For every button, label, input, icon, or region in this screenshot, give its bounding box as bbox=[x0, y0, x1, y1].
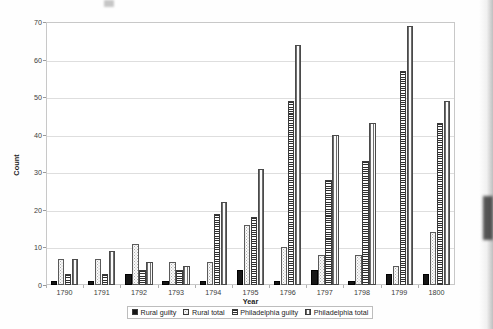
page-scan-artifact bbox=[483, 196, 493, 240]
bar bbox=[169, 262, 175, 285]
bar bbox=[88, 281, 94, 285]
bar-group bbox=[423, 22, 450, 285]
bar bbox=[444, 101, 450, 285]
x-tick-label: 1794 bbox=[193, 288, 233, 297]
bar bbox=[162, 281, 168, 285]
x-tick-label: 1795 bbox=[231, 288, 271, 297]
y-tick-label: 30 bbox=[14, 168, 42, 177]
x-axis-label: Year bbox=[46, 297, 455, 306]
bar bbox=[423, 274, 429, 285]
x-tick-label: 1800 bbox=[416, 288, 456, 297]
x-tick-label: 1793 bbox=[156, 288, 196, 297]
bar bbox=[258, 169, 264, 285]
bar bbox=[437, 123, 443, 285]
x-tick-mark bbox=[269, 285, 270, 288]
bar bbox=[325, 180, 331, 285]
legend-item[interactable]: Philadelphia guilty bbox=[232, 309, 298, 316]
y-tick-mark bbox=[43, 172, 46, 173]
bar-group bbox=[237, 22, 264, 285]
bar bbox=[125, 274, 131, 285]
bar bbox=[200, 281, 206, 285]
page-scan-artifact-top bbox=[104, 0, 114, 7]
legend-label: Philadelphia total bbox=[314, 309, 369, 316]
bar-group bbox=[200, 22, 227, 285]
y-tick-mark bbox=[43, 247, 46, 248]
bar bbox=[355, 255, 361, 285]
x-tick-mark bbox=[343, 285, 344, 288]
bar bbox=[281, 247, 287, 285]
bar bbox=[318, 255, 324, 285]
bar bbox=[237, 270, 243, 285]
bar bbox=[244, 225, 250, 285]
y-tick-mark bbox=[43, 97, 46, 98]
bar bbox=[146, 262, 152, 285]
bar-group bbox=[386, 22, 413, 285]
x-tick-mark bbox=[232, 285, 233, 288]
bar bbox=[295, 45, 301, 285]
x-tick-mark bbox=[120, 285, 121, 288]
bar-series-container bbox=[46, 22, 455, 285]
x-tick-label: 1797 bbox=[305, 288, 345, 297]
bar bbox=[332, 135, 338, 285]
y-tick-label: 0 bbox=[14, 281, 42, 290]
legend-item[interactable]: Rural guilty bbox=[132, 309, 176, 316]
bar bbox=[288, 101, 294, 285]
bar bbox=[430, 232, 436, 285]
bar bbox=[274, 281, 280, 285]
legend-swatch bbox=[183, 309, 189, 315]
bar bbox=[393, 266, 399, 285]
y-tick-label: 40 bbox=[14, 130, 42, 139]
bar bbox=[400, 71, 406, 285]
x-tick-mark bbox=[381, 285, 382, 288]
bar-group bbox=[51, 22, 78, 285]
bar bbox=[58, 259, 64, 285]
bar bbox=[386, 274, 392, 285]
bar bbox=[109, 251, 115, 285]
x-tick-label: 1799 bbox=[379, 288, 419, 297]
bar bbox=[183, 266, 189, 285]
x-tick-mark bbox=[46, 285, 47, 288]
legend-item[interactable]: Rural total bbox=[183, 309, 224, 316]
x-tick-label: 1796 bbox=[268, 288, 308, 297]
x-tick-mark bbox=[83, 285, 84, 288]
y-tick-label: 20 bbox=[14, 205, 42, 214]
x-tick-label: 1790 bbox=[45, 288, 85, 297]
bar bbox=[65, 274, 71, 285]
bar bbox=[51, 281, 57, 285]
bar-group bbox=[311, 22, 338, 285]
legend-label: Rural total bbox=[192, 309, 225, 316]
y-tick-label: 60 bbox=[14, 55, 42, 64]
legend-label: Rural guilty bbox=[141, 309, 177, 316]
bar bbox=[407, 26, 413, 285]
y-tick-label: 50 bbox=[14, 93, 42, 102]
y-tick-mark bbox=[43, 60, 46, 61]
y-tick-label: 70 bbox=[14, 18, 42, 27]
x-tick-mark bbox=[418, 285, 419, 288]
y-tick-mark bbox=[43, 135, 46, 136]
bar bbox=[207, 262, 213, 285]
bar bbox=[95, 259, 101, 285]
bar-group bbox=[88, 22, 115, 285]
bar bbox=[348, 281, 354, 285]
bar-group bbox=[162, 22, 189, 285]
bar bbox=[311, 270, 317, 285]
bar bbox=[139, 270, 145, 285]
x-tick-mark bbox=[158, 285, 159, 288]
chart-figure: Count Year Rural guiltyRural totalPhilad… bbox=[0, 0, 493, 329]
y-tick-label: 10 bbox=[14, 243, 42, 252]
bar bbox=[214, 214, 220, 285]
x-tick-mark bbox=[195, 285, 196, 288]
legend-swatch bbox=[132, 309, 138, 315]
legend-item[interactable]: Philadelphia total bbox=[305, 309, 368, 316]
page-scan-shadow bbox=[479, 0, 493, 329]
bar-group bbox=[348, 22, 375, 285]
x-tick-label: 1792 bbox=[119, 288, 159, 297]
bar bbox=[72, 259, 78, 285]
legend-label: Philadelphia guilty bbox=[240, 309, 298, 316]
bar bbox=[132, 244, 138, 285]
bar bbox=[251, 217, 257, 285]
bar bbox=[362, 161, 368, 285]
chart-legend: Rural guiltyRural totalPhiladelphia guil… bbox=[127, 306, 373, 319]
legend-swatch bbox=[232, 309, 238, 315]
legend-swatch bbox=[305, 309, 311, 315]
